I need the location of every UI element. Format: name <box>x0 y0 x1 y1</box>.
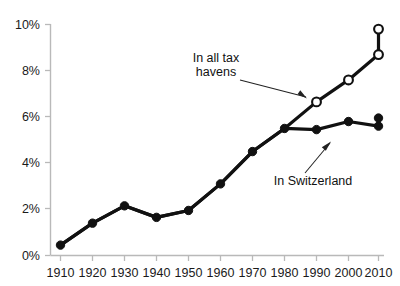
x-tick-label-2000: 2000 <box>335 266 363 280</box>
x-tick-label-1920: 1920 <box>79 266 107 280</box>
data-point-2013 <box>374 114 382 122</box>
x-tick-label-1940: 1940 <box>143 266 171 280</box>
x-tick-label-1990: 1990 <box>303 266 331 280</box>
x-axis-ticks <box>61 256 379 262</box>
data-point-2000 <box>344 117 352 125</box>
annotation-tax-havens: In all tax havens <box>193 51 307 99</box>
chart-container: 10% 8% 6% 4% 2% 0% 1910 1920 1930 1940 1… <box>0 0 400 286</box>
annotation-switzerland: In Switzerland <box>274 142 353 189</box>
y-tick-label-6: 6% <box>22 110 40 124</box>
annotation-tax-havens-line2: havens <box>196 65 236 79</box>
data-point-2010 <box>374 122 382 130</box>
data-point-2010 <box>374 50 383 59</box>
y-tick-label-4: 4% <box>22 156 40 170</box>
data-point-1980 <box>280 124 288 132</box>
x-tick-label-1980: 1980 <box>271 266 299 280</box>
data-point-1920 <box>88 219 96 227</box>
annotation-tax-havens-leader <box>240 80 306 97</box>
x-tick-label-1960: 1960 <box>207 266 235 280</box>
data-point-2013 <box>374 25 383 34</box>
data-point-1960 <box>216 180 224 188</box>
annotation-switzerland-arrowhead <box>322 142 331 151</box>
data-point-2000 <box>344 76 353 85</box>
data-point-1990 <box>312 97 321 106</box>
data-point-1930 <box>120 202 128 210</box>
line-chart: 10% 8% 6% 4% 2% 0% 1910 1920 1930 1940 1… <box>0 0 400 286</box>
data-point-1970 <box>248 147 256 155</box>
y-tick-label-2: 2% <box>22 202 40 216</box>
y-axis-ticks <box>45 25 51 256</box>
data-point-1950 <box>184 206 192 214</box>
y-tick-label-0: 0% <box>22 249 40 263</box>
x-tick-label-1950: 1950 <box>175 266 203 280</box>
annotation-tax-havens-arrowhead <box>298 90 308 98</box>
y-tick-label-10: 10% <box>15 18 40 32</box>
x-tick-label-1910: 1910 <box>47 266 75 280</box>
x-tick-label-1930: 1930 <box>111 266 139 280</box>
x-tick-label-1970: 1970 <box>239 266 267 280</box>
y-tick-label-8: 8% <box>22 64 40 78</box>
annotation-switzerland-line1: In Switzerland <box>274 174 353 188</box>
series-markers-tax-havens <box>312 25 383 107</box>
x-tick-label-2010: 2010 <box>365 266 393 280</box>
data-point-1910 <box>56 241 64 249</box>
annotation-tax-havens-line1: In all tax <box>193 51 240 65</box>
data-point-1940 <box>152 213 160 221</box>
data-point-1990 <box>312 125 320 133</box>
